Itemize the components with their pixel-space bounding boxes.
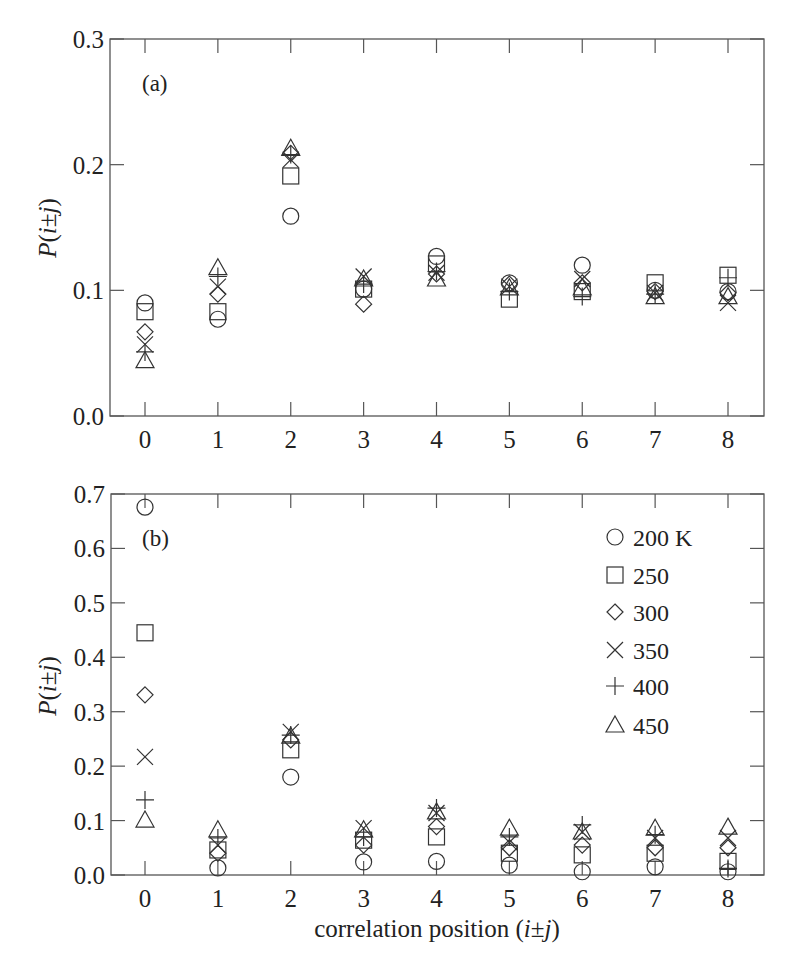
data-markers-a [136, 139, 737, 367]
panel-label-a: (a) [142, 71, 168, 96]
x-label-i: i [524, 915, 531, 942]
legend-item: 200 K [607, 525, 693, 551]
diamond-marker [429, 819, 445, 835]
square-marker [574, 847, 590, 863]
y-label-P: P [34, 701, 61, 717]
x-tick-label: 8 [722, 885, 735, 912]
y-label-close: ) [34, 656, 62, 664]
triangle-marker [136, 811, 154, 827]
y-tick-label: 0.2 [73, 152, 104, 179]
y-tick-label: 0.7 [74, 481, 105, 508]
figure: 0123456780.00.10.20.3 (a) P(i±j) 0123456… [0, 0, 795, 970]
y-tick-label: 0.5 [74, 590, 105, 617]
y-tick-label: 0.0 [73, 403, 104, 430]
y-label-open: ( [34, 234, 62, 242]
x-tick-label: 0 [139, 426, 152, 453]
x-label-close: ) [551, 915, 559, 943]
square-marker [283, 168, 299, 184]
x-tick-label: 3 [357, 426, 370, 453]
x-tick-label: 1 [212, 426, 225, 453]
legend-item: 350 [607, 638, 669, 664]
diamond-marker [137, 324, 153, 340]
y-label-pm: ± [34, 213, 61, 227]
legend-item: 400 [606, 674, 669, 700]
legend-label: 400 [633, 674, 669, 700]
y-tick-label: 0.2 [74, 753, 105, 780]
x-tick-label: 4 [430, 426, 443, 453]
legend-label: 200 K [633, 525, 693, 551]
y-label-i: i [34, 685, 61, 692]
x-axis-label: correlation position (i±j) [314, 915, 560, 943]
legend-label: 350 [633, 638, 669, 664]
axis-ticks-a: 0123456780.00.10.20.3 [73, 26, 764, 453]
square-icon [607, 567, 623, 583]
x-label-text: correlation position ( [314, 915, 524, 943]
plus-marker [355, 275, 373, 293]
x-tick-label: 5 [503, 426, 516, 453]
y-tick-label: 0.1 [74, 808, 105, 835]
x-icon [607, 642, 623, 658]
x-tick-label: 0 [139, 885, 152, 912]
legend: 200 K250300350400450 [606, 525, 693, 739]
diamond-icon [607, 604, 623, 620]
diamond-marker [210, 286, 226, 302]
figure-svg: 0123456780.00.10.20.3 (a) P(i±j) 0123456… [0, 0, 795, 970]
triangle-icon [606, 716, 624, 732]
x-tick-label: 6 [576, 885, 589, 912]
diamond-marker [210, 845, 226, 861]
x-tick-label: 7 [649, 426, 662, 453]
x-tick-label: 4 [430, 885, 443, 912]
y-tick-label: 0.1 [73, 277, 104, 304]
plus-marker [428, 262, 446, 280]
x-tick-label: 5 [503, 885, 516, 912]
y-tick-label: 0.3 [73, 26, 104, 53]
legend-label: 250 [633, 563, 669, 589]
y-label-open: ( [34, 692, 62, 700]
circle-marker [283, 769, 299, 785]
panel-b: 0123456780.00.10.20.30.40.50.60.7 (b) P(… [34, 481, 764, 943]
legend-item: 450 [606, 713, 669, 739]
y-label-pm: ± [34, 671, 61, 685]
panel-a: 0123456780.00.10.20.3 (a) P(i±j) [34, 26, 764, 453]
x-label-pm: ± [531, 915, 545, 942]
circle-marker [574, 257, 590, 273]
x-tick-label: 6 [576, 426, 589, 453]
plus-marker [719, 269, 737, 287]
legend-label: 450 [633, 713, 669, 739]
y-tick-label: 0.4 [74, 644, 106, 671]
y-tick-label: 0.0 [74, 862, 105, 889]
x-tick-label: 2 [285, 426, 298, 453]
circle-icon [607, 529, 623, 545]
diamond-marker [137, 687, 153, 703]
square-marker [137, 304, 153, 320]
square-marker [137, 625, 153, 641]
x-marker [720, 830, 736, 846]
x-tick-label: 3 [357, 885, 370, 912]
plus-marker [573, 816, 591, 834]
y-tick-label: 0.6 [74, 535, 105, 562]
circle-marker [283, 208, 299, 224]
y-label-P: P [34, 243, 61, 259]
y-axis-label-b: P(i±j) [34, 656, 62, 717]
legend-item: 250 [607, 563, 669, 589]
x-tick-label: 7 [649, 885, 662, 912]
x-tick-label: 8 [722, 426, 735, 453]
plus-marker [136, 791, 154, 809]
circle-marker [137, 295, 153, 311]
x-tick-label: 2 [285, 885, 298, 912]
plus-marker [282, 146, 300, 164]
square-marker [283, 742, 299, 758]
y-tick-label: 0.3 [74, 699, 105, 726]
square-marker [429, 829, 445, 845]
plus-icon [606, 677, 624, 695]
legend-label: 300 [633, 600, 669, 626]
y-label-i: i [34, 227, 61, 234]
y-axis-label-a: P(i±j) [34, 198, 62, 259]
legend-item: 300 [607, 600, 669, 626]
y-label-close: ) [34, 198, 62, 206]
x-marker [137, 749, 153, 765]
x-tick-label: 1 [212, 885, 225, 912]
diamond-marker [356, 296, 372, 312]
panel-label-b: (b) [142, 526, 169, 551]
plot-frame-a [110, 39, 764, 416]
